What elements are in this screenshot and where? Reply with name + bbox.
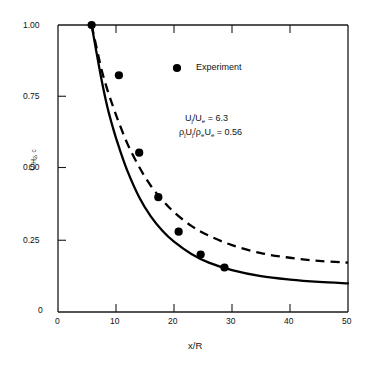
x-axis-title: x/R xyxy=(188,340,202,351)
x-tick-label-30: 30 xyxy=(226,316,235,326)
x-tick-label-20: 20 xyxy=(168,316,177,326)
model-curve-dashed xyxy=(92,25,348,263)
y-tick-label-0-75: 0.75 xyxy=(23,91,40,101)
x-tick-label-40: 40 xyxy=(284,316,293,326)
y-axis-ticks xyxy=(58,96,66,240)
x-tick-label-0: 0 xyxy=(55,316,60,326)
data-point-marker xyxy=(197,251,205,259)
y-title-2: 2 xyxy=(32,156,38,159)
y-axis-title-text: CH2, c xyxy=(26,149,38,170)
y-axis-title: CH2, c xyxy=(22,130,42,190)
annot-eq-2: = 0.56 xyxy=(214,127,242,137)
y-title-c2: , c xyxy=(30,149,37,156)
x-tick-label-10: 10 xyxy=(110,316,119,326)
data-point-marker xyxy=(154,193,162,201)
annot-eq-1: = 6.3 xyxy=(205,113,228,123)
chart-canvas xyxy=(0,0,372,368)
x-tick-label-50: 50 xyxy=(342,316,351,326)
legend-label-experiment: Experiment xyxy=(196,62,242,72)
y-tick-label-1-00: 1.00 xyxy=(23,20,40,30)
annot-slash-u: /U xyxy=(193,113,202,123)
data-point-marker xyxy=(135,149,143,157)
y-title-h: H xyxy=(30,159,37,164)
annotation-velocity-ratio: Uj/Ue = 6.3 xyxy=(185,112,228,127)
legend-marker-icon xyxy=(173,64,181,72)
data-point-marker xyxy=(220,263,228,271)
y-tick-label-0-25: 0.25 xyxy=(23,235,40,245)
y-title-c: C xyxy=(26,164,37,171)
data-point-marker xyxy=(88,21,96,29)
annotation-mass-flux-ratio: ρjUj/ρeUe = 0.56 xyxy=(179,126,242,141)
chart-figure: 1.00 0.75 0.50 0.25 0 0 10 20 30 40 50 x… xyxy=(0,0,372,368)
data-point-marker xyxy=(115,71,123,79)
data-point-marker xyxy=(175,228,183,236)
y-tick-label-0: 0 xyxy=(38,305,43,315)
